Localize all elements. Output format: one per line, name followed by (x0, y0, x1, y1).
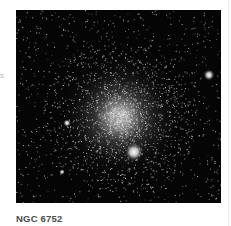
cut-off-side-text: s (0, 71, 4, 81)
figure-caption: NGC 6752 (16, 213, 62, 225)
column-divider (228, 0, 229, 226)
star-field-canvas (16, 10, 221, 203)
star-cluster-image (16, 10, 221, 203)
